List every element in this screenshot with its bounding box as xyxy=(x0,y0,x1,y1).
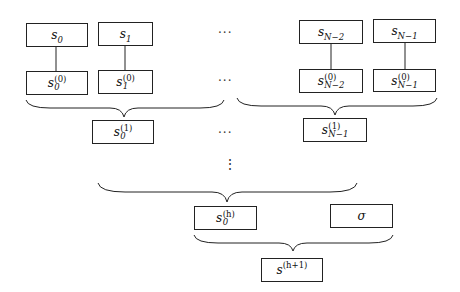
node-s0-level0: s(0)0 xyxy=(26,71,88,95)
brace-left-group xyxy=(26,100,224,117)
ellipsis-vertical: ⋮ xyxy=(223,156,238,172)
ellipsis-row1: ··· xyxy=(218,26,232,40)
brace-root xyxy=(194,235,393,251)
node-sN-1-level0: s(0)N−1 xyxy=(373,69,436,92)
node-s0-level-h: s(h)0 xyxy=(194,206,257,230)
ellipsis-row2: ··· xyxy=(218,74,232,88)
node-sN-2: sN−2 xyxy=(299,20,363,44)
brace-right-group xyxy=(237,98,437,115)
node-sN-1-level1: s(1)N−1 xyxy=(303,118,367,142)
node-s1: s1 xyxy=(98,22,153,46)
node-s0-level1: s(1)0 xyxy=(92,120,154,144)
node-root: s(h+1) xyxy=(261,258,323,282)
tree-diagram: s0 s1 sN−2 sN−1 s(0)0 s(0)1 s(0)N−2 s(0)… xyxy=(0,0,460,292)
node-s1-level0: s(0)1 xyxy=(98,70,153,94)
node-sN-2-level0: s(0)N−2 xyxy=(299,69,363,93)
node-sigma: σ xyxy=(330,204,393,228)
node-s0: s0 xyxy=(26,23,88,47)
node-sN-1: sN−1 xyxy=(373,19,436,43)
brace-level-h xyxy=(98,183,357,202)
ellipsis-row3: ··· xyxy=(218,126,232,140)
